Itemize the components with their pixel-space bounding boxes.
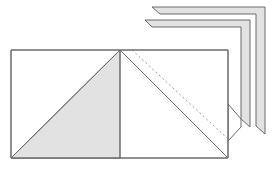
main-sheet-group <box>11 50 228 158</box>
chevron-back-tab <box>228 104 241 141</box>
paper-folding-figure: Paper folding diagram Rectangular sheet … <box>0 0 276 170</box>
